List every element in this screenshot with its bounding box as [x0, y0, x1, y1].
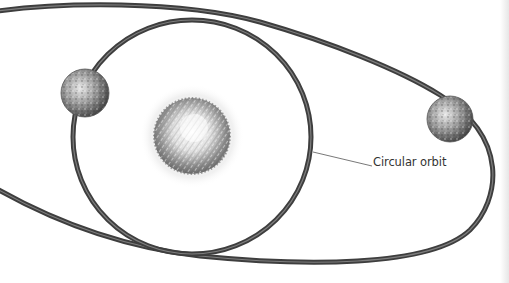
orbit-diagram [0, 0, 509, 283]
central-star [154, 98, 230, 174]
circular-orbit-label: Circular orbit [373, 155, 446, 169]
label-leader-line [313, 152, 372, 166]
page-edge-shade [500, 0, 509, 283]
planet-on-elliptical-orbit [427, 96, 473, 142]
planet-on-circular-orbit [61, 69, 109, 117]
